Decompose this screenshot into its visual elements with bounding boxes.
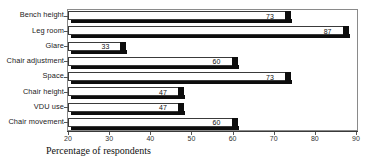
cropped-title-sliver — [0, 0, 366, 4]
category-axis-tick — [64, 16, 68, 17]
bar-3d-cap — [120, 42, 126, 51]
category-label: Glare — [45, 42, 64, 50]
bar-series: 7387336073474760 — [68, 9, 357, 131]
bar-item: 73 — [68, 72, 295, 81]
bar-3d-cap — [285, 11, 291, 20]
bar-face — [68, 72, 286, 81]
bar-3d-cap — [232, 57, 238, 66]
bar-value-label: 73 — [266, 73, 274, 80]
x-axis-tick-label: 40 — [146, 135, 154, 143]
bar-item: 47 — [68, 103, 188, 112]
x-axis-tick-label: 30 — [105, 135, 113, 143]
bar-item: 33 — [68, 42, 130, 51]
bar-face — [68, 11, 286, 20]
category-label: Chair height — [23, 88, 64, 96]
category-axis-tick — [64, 122, 68, 123]
bar-3d-cap — [232, 118, 238, 127]
bar-face — [68, 57, 233, 66]
x-axis-tick-label: 70 — [270, 135, 278, 143]
x-axis-tick-label: 50 — [188, 135, 196, 143]
category-label: Bench height — [20, 11, 64, 19]
category-label: Chair movement — [8, 118, 64, 126]
bar-item: 87 — [68, 26, 353, 35]
bar-3d-cap — [178, 103, 184, 112]
x-axis-tick-label: 60 — [229, 135, 237, 143]
x-axis-tick-label: 90 — [352, 135, 360, 143]
bar-face — [68, 26, 344, 35]
bar-3d-cap — [285, 72, 291, 81]
bar-item: 60 — [68, 118, 242, 127]
category-label: Space — [43, 72, 64, 80]
category-axis-labels: Bench heightLeg roomGlareChair adjustmen… — [0, 9, 64, 131]
bar-value-label: 47 — [159, 88, 167, 95]
category-label: VDU use — [34, 103, 64, 111]
x-axis-tick-label: 20 — [64, 135, 72, 143]
bar-3d-cap — [343, 26, 349, 35]
category-label: Leg room — [32, 27, 64, 35]
bar-face — [68, 118, 233, 127]
bar-face — [68, 42, 121, 51]
category-axis-tick — [64, 46, 68, 47]
x-axis-title: Percentage of respondents — [46, 145, 151, 156]
bar-item: 73 — [68, 11, 295, 20]
category-axis-tick — [64, 31, 68, 32]
bar-value-label: 60 — [213, 58, 221, 65]
category-label: Chair adjustment — [7, 57, 64, 65]
x-axis-tick-label: 80 — [311, 135, 319, 143]
category-axis-tick — [64, 77, 68, 78]
category-axis-tick — [64, 107, 68, 108]
bar-value-label: 60 — [213, 119, 221, 126]
category-axis-tick — [64, 61, 68, 62]
bar-value-label: 33 — [101, 43, 109, 50]
bar-value-label: 47 — [159, 104, 167, 111]
bar-item: 47 — [68, 87, 188, 96]
bar-item: 60 — [68, 57, 242, 66]
category-axis-tick — [64, 92, 68, 93]
bar-3d-cap — [178, 87, 184, 96]
bar-value-label: 73 — [266, 12, 274, 19]
bar-value-label: 87 — [324, 27, 332, 34]
